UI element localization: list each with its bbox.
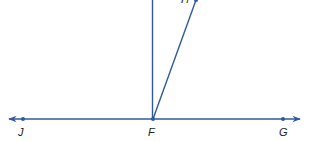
point-h [194,0,198,2]
ray-fh [153,0,196,119]
label-f: F [148,126,156,138]
point-g [281,117,285,121]
point-j [21,117,25,121]
label-h: H [181,0,189,5]
label-g: G [279,126,288,138]
geometry-diagram: J F G H [0,0,316,141]
point-f [151,117,155,121]
label-j: J [17,126,24,138]
